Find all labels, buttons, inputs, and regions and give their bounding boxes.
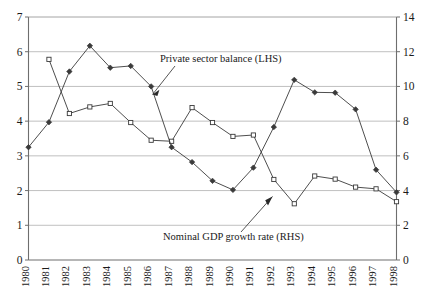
annotation-arrowhead xyxy=(265,197,272,206)
left-axis-tick-label: 2 xyxy=(17,185,23,197)
right-axis-tick-label: 14 xyxy=(403,11,415,23)
data-point-marker xyxy=(292,77,297,82)
left-axis-tick-label: 1 xyxy=(17,219,23,231)
left-axis-tick-label: 6 xyxy=(17,46,23,58)
dual-axis-line-chart: 0123456702468101214198019811982198319841… xyxy=(0,0,428,305)
data-point-marker xyxy=(47,57,51,61)
right-axis-tick-label: 8 xyxy=(403,115,409,127)
x-axis-tick-label: 1992 xyxy=(265,266,276,287)
x-axis-tick-label: 1991 xyxy=(244,266,255,287)
data-point-marker xyxy=(210,120,214,124)
left-axis-tick-label: 7 xyxy=(17,11,23,23)
right-axis-tick-label: 6 xyxy=(403,150,409,162)
left-axis-tick-label: 5 xyxy=(17,80,23,92)
x-axis-tick-label: 1986 xyxy=(142,266,153,287)
data-point-marker xyxy=(394,200,398,204)
data-point-marker xyxy=(272,177,276,181)
x-axis-tick-label: 1987 xyxy=(163,266,174,287)
data-point-marker xyxy=(108,101,112,105)
x-axis-tick-label: 1990 xyxy=(224,266,235,287)
data-point-marker xyxy=(292,202,296,206)
annotation-label-nominal-gdp: Nominal GDP growth rate (RHS) xyxy=(163,231,304,243)
x-axis-tick-label: 1995 xyxy=(326,266,337,287)
x-axis-tick-label: 1984 xyxy=(101,265,112,287)
data-point-marker xyxy=(271,124,276,129)
x-axis-tick-label: 1997 xyxy=(367,266,378,287)
data-point-marker xyxy=(149,138,153,142)
x-axis-tick-label: 1994 xyxy=(306,265,317,287)
data-point-marker xyxy=(354,185,358,189)
left-axis-tick-label: 3 xyxy=(17,150,23,162)
data-point-marker xyxy=(374,187,378,191)
data-point-marker xyxy=(190,106,194,110)
x-axis-tick-label: 1982 xyxy=(60,266,71,287)
x-axis-tick-label: 1989 xyxy=(204,266,215,287)
data-point-marker xyxy=(312,90,317,95)
annotation-label-private-sector: Private sector balance (LHS) xyxy=(160,53,282,65)
right-axis-tick-label: 10 xyxy=(403,80,415,92)
series-line xyxy=(29,46,397,193)
right-axis-tick-label: 12 xyxy=(403,46,415,58)
data-point-marker xyxy=(88,105,92,109)
chart-canvas: 0123456702468101214198019811982198319841… xyxy=(0,0,428,305)
x-axis-tick-label: 1981 xyxy=(40,266,51,287)
x-axis-tick-label: 1996 xyxy=(347,266,358,287)
data-point-marker xyxy=(129,120,133,124)
left-axis-tick-label: 4 xyxy=(17,115,23,127)
x-axis-tick-label: 1980 xyxy=(20,266,31,287)
data-point-marker xyxy=(231,134,235,138)
x-axis-tick-label: 1988 xyxy=(183,266,194,287)
annotation-leader-line xyxy=(153,66,176,95)
data-point-marker xyxy=(313,174,317,178)
left-axis-tick-label: 0 xyxy=(17,254,23,266)
data-point-marker xyxy=(333,177,337,181)
series-line xyxy=(49,59,397,203)
x-axis-tick-label: 1998 xyxy=(388,266,399,287)
data-point-marker xyxy=(67,111,71,115)
data-point-marker xyxy=(251,133,255,137)
x-axis-tick-label: 1993 xyxy=(285,266,296,287)
right-axis-tick-label: 4 xyxy=(403,185,409,197)
right-axis-tick-label: 0 xyxy=(403,254,409,266)
x-axis-tick-label: 1983 xyxy=(81,266,92,287)
right-axis-tick-label: 2 xyxy=(403,219,409,231)
x-axis-tick-label: 1985 xyxy=(122,266,133,287)
